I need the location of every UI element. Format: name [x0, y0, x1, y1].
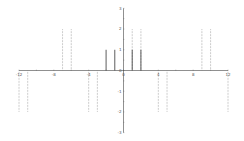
x-tick-label: 8: [192, 72, 195, 77]
y-tick-label: 1: [119, 47, 122, 52]
stem-plot: -12-8-4048123210-1-2-3: [0, 0, 244, 141]
y-tick-label: -3: [118, 130, 122, 135]
x-tick-label: -4: [87, 72, 91, 77]
x-tick-label: 12: [225, 72, 231, 77]
x-tick-label: -8: [52, 72, 56, 77]
x-tick-label: 4: [157, 72, 160, 77]
y-tick-label: -1: [118, 89, 122, 94]
y-tick-label: 2: [119, 26, 122, 31]
axes: [19, 8, 228, 132]
y-tick-label: -2: [118, 109, 122, 114]
x-tick-label: 0: [122, 72, 125, 77]
x-tick-label: -12: [16, 72, 23, 77]
y-tick-label: 3: [119, 6, 122, 11]
